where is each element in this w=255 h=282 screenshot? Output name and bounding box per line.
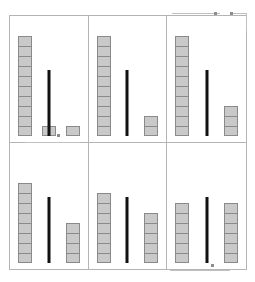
right-block-stack xyxy=(144,116,158,136)
bottom-pointer-arrow-icon xyxy=(211,264,214,267)
panel-bottom-left xyxy=(10,143,89,270)
unit-block xyxy=(175,36,189,46)
panel-top-left xyxy=(10,16,89,143)
unit-block xyxy=(18,213,32,223)
panel-inner xyxy=(10,143,88,270)
top-left-pointer-arrow-icon xyxy=(214,12,217,15)
top-right-pointer-vertical-line xyxy=(246,13,247,31)
unit-block xyxy=(97,76,111,86)
unit-block xyxy=(175,86,189,96)
unit-block xyxy=(97,56,111,66)
unit-block xyxy=(97,233,111,243)
unit-block xyxy=(18,183,32,193)
unit-block xyxy=(175,106,189,116)
unit-block xyxy=(66,253,80,263)
unit-block xyxy=(18,56,32,66)
middle-pointer-arrow-icon xyxy=(57,134,60,137)
unit-block xyxy=(97,66,111,76)
unit-block xyxy=(175,56,189,66)
unit-block xyxy=(18,253,32,263)
divider-bar xyxy=(47,197,50,263)
unit-block xyxy=(224,243,238,253)
unit-block xyxy=(144,116,158,126)
unit-block xyxy=(175,233,189,243)
unit-block xyxy=(66,233,80,243)
left-block-stack xyxy=(18,183,32,263)
right-block-stack xyxy=(144,213,158,263)
unit-block xyxy=(18,126,32,136)
unit-block xyxy=(224,116,238,126)
unit-block xyxy=(175,203,189,213)
divider-bar xyxy=(47,70,50,136)
figure-root: Block Comparison Grid xyxy=(0,0,255,282)
unit-block xyxy=(18,203,32,213)
unit-block xyxy=(144,233,158,243)
unit-block xyxy=(144,223,158,233)
unit-block xyxy=(175,66,189,76)
unit-block xyxy=(97,253,111,263)
unit-block xyxy=(175,253,189,263)
unit-block xyxy=(97,223,111,233)
unit-block xyxy=(224,213,238,223)
panel-inner xyxy=(89,16,167,142)
unit-block xyxy=(175,213,189,223)
right-block-stack xyxy=(224,106,238,136)
unit-block xyxy=(224,233,238,243)
unit-block xyxy=(18,116,32,126)
top-left-pointer-line xyxy=(172,13,220,14)
panel-inner xyxy=(89,143,167,270)
unit-block xyxy=(97,193,111,203)
panel-bottom-middle xyxy=(89,143,168,270)
unit-block xyxy=(97,96,111,106)
unit-block xyxy=(175,126,189,136)
unit-block xyxy=(18,193,32,203)
unit-block xyxy=(175,46,189,56)
middle-pointer-line xyxy=(25,142,80,143)
right-block-stack xyxy=(224,203,238,263)
unit-block xyxy=(97,126,111,136)
unit-block xyxy=(175,116,189,126)
bottom-pointer-line xyxy=(170,270,230,271)
unit-block xyxy=(18,96,32,106)
unit-block xyxy=(97,86,111,96)
unit-block xyxy=(175,243,189,253)
left-block-stack xyxy=(175,203,189,263)
panel-inner xyxy=(167,143,246,270)
unit-block xyxy=(18,223,32,233)
divider-bar xyxy=(126,70,129,136)
unit-block xyxy=(224,223,238,233)
unit-block xyxy=(144,213,158,223)
unit-block xyxy=(97,213,111,223)
unit-block xyxy=(18,243,32,253)
left-block-stack xyxy=(18,36,32,136)
unit-block xyxy=(18,36,32,46)
left-block-stack xyxy=(97,36,111,136)
right-block-stack xyxy=(66,126,80,136)
unit-block xyxy=(66,223,80,233)
unit-block xyxy=(18,86,32,96)
panel-inner xyxy=(10,16,88,142)
unit-block xyxy=(224,106,238,116)
panel-inner xyxy=(167,16,246,142)
unit-block xyxy=(175,76,189,86)
unit-block xyxy=(97,36,111,46)
unit-block xyxy=(97,106,111,116)
figure-title: Block Comparison Grid xyxy=(0,0,1,1)
unit-block xyxy=(224,253,238,263)
unit-block xyxy=(18,46,32,56)
left-block-stack xyxy=(97,193,111,263)
unit-block xyxy=(224,203,238,213)
panel-top-middle xyxy=(89,16,168,143)
left-block-stack xyxy=(175,36,189,136)
right-block-stack xyxy=(66,223,80,263)
unit-block xyxy=(175,96,189,106)
panel-bottom-right xyxy=(167,143,246,270)
unit-block xyxy=(144,253,158,263)
divider-bar xyxy=(205,197,208,263)
unit-block xyxy=(18,233,32,243)
unit-block xyxy=(97,46,111,56)
unit-block xyxy=(144,243,158,253)
unit-block xyxy=(144,126,158,136)
unit-block xyxy=(66,126,80,136)
unit-block xyxy=(18,76,32,86)
